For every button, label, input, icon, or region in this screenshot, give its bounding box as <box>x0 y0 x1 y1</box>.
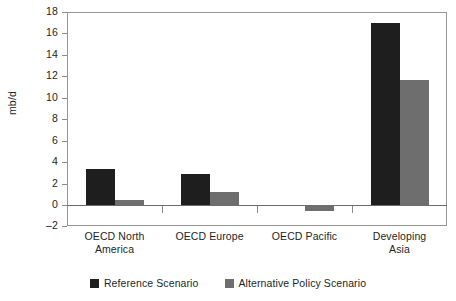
bar-reference <box>371 23 400 205</box>
category-label: OECD Pacific <box>257 230 352 243</box>
y-tick-label: 2 <box>18 177 58 189</box>
category-label: DevelopingAsia <box>352 230 447 256</box>
y-tick-label: 8 <box>18 112 58 124</box>
category-label-line1: Developing <box>373 230 427 242</box>
y-tick-label: 16 <box>18 26 58 38</box>
y-tick-mark <box>62 33 67 34</box>
y-tick-mark <box>62 98 67 99</box>
y-axis-label: mb/d <box>6 78 18 128</box>
y-tick-mark <box>62 226 67 227</box>
bar-alternative <box>210 192 239 205</box>
category-label-line1: OECD North <box>85 230 145 242</box>
bar-alternative <box>115 200 144 205</box>
y-tick-mark <box>62 184 67 185</box>
y-tick-label: 6 <box>18 134 58 146</box>
bar-reference <box>86 169 115 205</box>
legend-label-reference: Reference Scenario <box>104 277 199 289</box>
y-tick-mark <box>62 162 67 163</box>
legend-swatch-icon-reference <box>90 279 99 288</box>
y-tick-mark <box>62 119 67 120</box>
legend-item-reference-scenario: Reference Scenario <box>90 277 199 289</box>
y-tick-label: 0 <box>18 198 58 210</box>
legend-item-alternative-policy-scenario: Alternative Policy Scenario <box>225 277 367 289</box>
y-tick-mark <box>62 141 67 142</box>
legend-swatch-icon-alternative <box>225 279 234 288</box>
category-label-line2: Asia <box>352 243 447 256</box>
y-tick-mark <box>62 55 67 56</box>
x-tick-mark <box>162 206 163 213</box>
x-tick-mark <box>257 206 258 213</box>
category-label-line1: OECD Pacific <box>272 230 337 242</box>
y-tick-label: 12 <box>18 69 58 81</box>
x-tick-mark <box>352 206 353 213</box>
bar-chart: mb/d 181614121086420–2 OECD NorthAmerica… <box>0 0 456 301</box>
chart-title-strip <box>0 0 456 7</box>
y-tick-label: –2 <box>18 219 58 231</box>
y-tick-mark <box>62 76 67 77</box>
bar-reference <box>181 174 210 205</box>
zero-baseline <box>67 205 447 206</box>
y-tick-label: 4 <box>18 155 58 167</box>
category-label: OECD NorthAmerica <box>67 230 162 256</box>
category-label-line1: OECD Europe <box>175 230 243 242</box>
y-tick-label: 18 <box>18 5 58 17</box>
bar-alternative <box>305 205 334 211</box>
chart-legend: Reference Scenario Alternative Policy Sc… <box>0 277 456 289</box>
category-label-line2: America <box>67 243 162 256</box>
legend-label-alternative: Alternative Policy Scenario <box>239 277 367 289</box>
y-tick-mark <box>62 12 67 13</box>
bar-alternative <box>400 80 429 205</box>
category-label: OECD Europe <box>162 230 257 243</box>
y-tick-label: 14 <box>18 48 58 60</box>
y-tick-label: 10 <box>18 91 58 103</box>
